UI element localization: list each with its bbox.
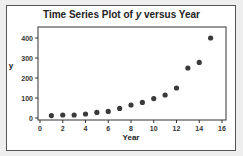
y-tick-label: 200 <box>21 75 33 82</box>
data-point <box>140 100 145 105</box>
data-point <box>106 109 111 114</box>
y-tick-label: 300 <box>21 55 33 62</box>
x-tick-label: 16 <box>218 125 226 132</box>
data-point <box>94 110 99 115</box>
y-tick-label: 0 <box>29 115 33 122</box>
x-tick-label: 8 <box>129 125 133 132</box>
x-tick-label: 10 <box>150 125 158 132</box>
data-point <box>72 112 77 117</box>
x-tick-label: 14 <box>195 125 203 132</box>
data-point <box>163 92 168 97</box>
x-tick-label: 12 <box>173 125 181 132</box>
x-tick-label: 6 <box>106 125 110 132</box>
y-tick-label: 100 <box>21 95 33 102</box>
data-point <box>174 85 179 90</box>
data-point <box>151 96 156 101</box>
data-point <box>83 111 88 116</box>
y-tick-label: 400 <box>21 35 33 42</box>
data-point <box>208 35 213 40</box>
scatter-plot: 01002003004000246810121416Yeary <box>0 0 243 156</box>
x-tick-label: 4 <box>84 125 88 132</box>
y-axis-label: y <box>9 61 14 70</box>
data-point <box>185 65 190 70</box>
data-point <box>197 60 202 65</box>
data-point <box>49 113 54 118</box>
data-point <box>128 102 133 107</box>
data-point <box>60 112 65 117</box>
data-point <box>117 106 122 111</box>
x-axis-label: Year <box>123 133 140 142</box>
x-tick-label: 0 <box>38 125 42 132</box>
x-tick-label: 2 <box>61 125 65 132</box>
